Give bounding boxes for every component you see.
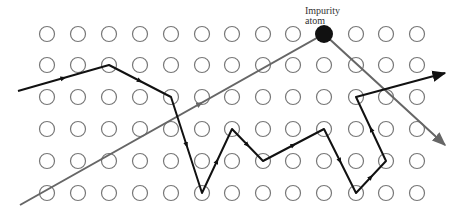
lattice-atom	[71, 186, 86, 201]
lattice-atom	[379, 122, 394, 137]
lattice-atom	[164, 27, 179, 42]
lattice-atom	[410, 186, 425, 201]
lattice-atom	[195, 154, 210, 169]
impurity-label: Impurity atom	[305, 6, 340, 26]
lattice-atom	[71, 90, 86, 105]
lattice-atom	[225, 90, 240, 105]
lattice-atom	[40, 122, 55, 137]
lattice-atom	[164, 154, 179, 169]
lattice-atom	[225, 27, 240, 42]
lattice-atom	[349, 27, 364, 42]
lattice-atom	[410, 154, 425, 169]
lattice-atom	[317, 90, 332, 105]
lattice-atom	[102, 186, 117, 201]
lattice-atom	[379, 58, 394, 73]
lattice-atom	[164, 58, 179, 73]
lattice-atom	[195, 27, 210, 42]
lattice-atom	[256, 186, 271, 201]
lattice-atom	[40, 90, 55, 105]
lattice-atom	[379, 186, 394, 201]
lattice-atom	[317, 186, 332, 201]
lattice-atom	[71, 154, 86, 169]
lattice-atom	[133, 154, 148, 169]
lattice-atom	[225, 186, 240, 201]
lattice-atom	[286, 58, 301, 73]
lattice-atom	[40, 58, 55, 73]
lattice-atom	[102, 90, 117, 105]
impurity-label-line2: atom	[305, 16, 340, 26]
lattice-atom	[410, 27, 425, 42]
lattice-atom	[102, 122, 117, 137]
lattice-atom	[349, 122, 364, 137]
lattice-atom	[286, 27, 301, 42]
lattice-atom	[40, 154, 55, 169]
lattice-atom	[317, 58, 332, 73]
lattice-atom	[102, 27, 117, 42]
lattice-atom	[256, 90, 271, 105]
lattice-atom	[349, 154, 364, 169]
lattice-atom	[133, 186, 148, 201]
lattice-atom	[133, 58, 148, 73]
lattice-atom	[133, 90, 148, 105]
lattice-atoms	[40, 27, 425, 201]
lattice-atom	[286, 154, 301, 169]
lattice-atom	[164, 186, 179, 201]
lattice-atom	[286, 186, 301, 201]
lattice-atom	[71, 58, 86, 73]
lattice-atom	[195, 122, 210, 137]
lattice-atom	[379, 27, 394, 42]
lattice-atom	[410, 58, 425, 73]
lattice-atom	[225, 154, 240, 169]
lattice-atom	[71, 27, 86, 42]
lattice-atom	[317, 154, 332, 169]
lattice-atom	[286, 90, 301, 105]
impurity-atom	[315, 25, 333, 43]
lattice-atom	[256, 27, 271, 42]
lattice-diagram	[0, 0, 466, 213]
lattice-atom	[195, 58, 210, 73]
lattice-atom	[286, 122, 301, 137]
lattice-atom	[410, 90, 425, 105]
lattice-atom	[71, 122, 86, 137]
lattice-atom	[256, 122, 271, 137]
lattice-atom	[225, 58, 240, 73]
lattice-atom	[133, 27, 148, 42]
lattice-atom	[40, 27, 55, 42]
